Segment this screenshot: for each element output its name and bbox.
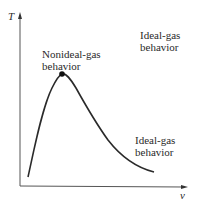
ideal-gas-label-bottom: Ideal-gas behavior <box>135 134 175 158</box>
ideal-gas-label-top: Ideal-gas behavior <box>140 29 180 53</box>
t-axis-arrow-icon <box>18 12 22 19</box>
nonideal-gas-label: Nonideal-gas behavior <box>42 48 101 72</box>
v-axis <box>20 186 184 187</box>
saturation-dome-curve <box>28 74 154 177</box>
t-v-diagram: T v Nonideal-gas behavior Ideal-gas beha… <box>0 0 202 204</box>
t-axis-label: T <box>8 11 14 22</box>
v-axis-label: v <box>180 190 185 201</box>
critical-point-marker <box>59 71 65 77</box>
